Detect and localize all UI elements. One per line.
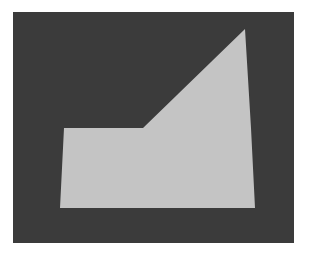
shape-layer [0, 0, 309, 256]
light-gray-polygon [60, 29, 255, 208]
image-canvas [0, 0, 309, 256]
